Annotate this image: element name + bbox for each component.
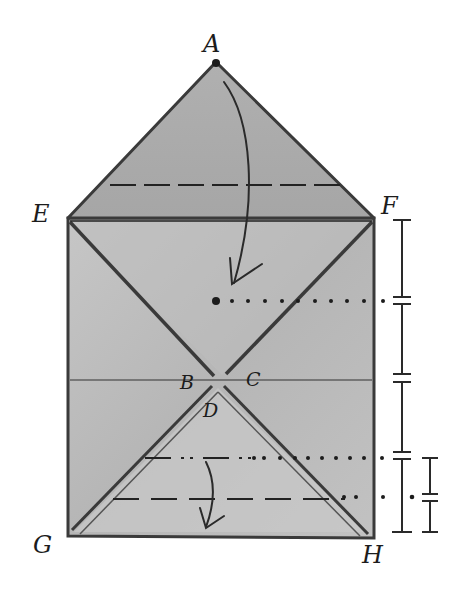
label-H: H [361,541,384,569]
folding-diagram: A E F B C D G H [0,0,463,590]
measure-main-bar [392,220,412,532]
measure-small-bar [422,458,438,532]
top-flap-triangle [68,62,374,218]
label-C: C [246,368,261,390]
label-D: D [202,399,218,421]
label-A: A [201,30,220,58]
label-E: E [31,200,50,228]
label-F: F [380,192,399,220]
center-point [212,297,220,305]
label-G: G [33,531,52,559]
point-A-dot [212,59,220,67]
paper-shape [68,62,374,538]
label-B: B [179,371,194,393]
